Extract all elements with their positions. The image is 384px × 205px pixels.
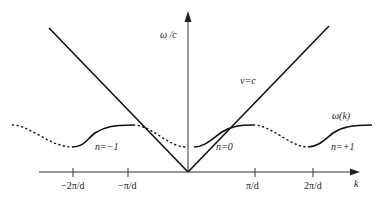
harmonic-label-n-plus-1: n=+1 [331, 142, 355, 152]
curve-label: ω(k) [332, 111, 350, 121]
harmonic-label-n-minus-1: n=−1 [95, 142, 119, 152]
x-axis-label: k [354, 179, 358, 189]
light-line-label: v=c [240, 76, 256, 86]
y-axis-label: ω /c [160, 30, 177, 40]
tick-label-2pi-d: 2π/d [304, 181, 322, 191]
x-axis-arrow-icon [350, 169, 360, 176]
y-axis-arrow-icon [185, 11, 192, 22]
light-line-positive [188, 26, 329, 172]
tick-label-pi-d: π/d [246, 181, 259, 191]
tick-label-minus-pi-d: −π/d [118, 181, 136, 191]
tick-label-minus-2pi-d: −2π/d [61, 181, 84, 191]
light-line-negative [49, 28, 188, 172]
harmonic-label-n-0: n=0 [216, 142, 233, 152]
dispersion-diagram [0, 0, 384, 205]
